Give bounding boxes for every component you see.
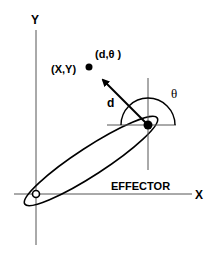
target-point: [86, 64, 93, 71]
x-axis-label: X: [195, 188, 203, 202]
distance-label: d: [107, 96, 114, 110]
y-axis-label: Y: [31, 13, 39, 27]
effector-body: [17, 106, 165, 216]
polar-coordinates-label: (d,θ ): [95, 48, 121, 60]
effector-label: EFFECTOR: [111, 180, 170, 192]
theta-label: θ: [171, 86, 177, 101]
origin-marker: [33, 191, 40, 198]
effector-diagram: Y X θ d (X,Y) (d,θ ) EFFECTOR: [0, 0, 214, 259]
target-point-label: (X,Y): [51, 63, 76, 75]
